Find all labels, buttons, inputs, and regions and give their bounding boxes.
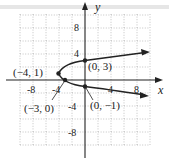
- y-tick-4: 4: [74, 48, 79, 59]
- x-tick-neg8: -8: [27, 84, 35, 95]
- y-tick-8: 8: [74, 22, 79, 33]
- label-vertex: (−4, 1): [13, 66, 43, 79]
- y-tick-neg8: -8: [68, 127, 76, 138]
- point-neg3-0: [63, 78, 67, 82]
- x-tick-4: 4: [108, 84, 113, 95]
- label-neg3-0: (−3, 0): [24, 102, 54, 115]
- axes: [6, 6, 158, 158]
- y-axis-label: y: [94, 0, 101, 14]
- x-axis-label: x: [157, 83, 164, 97]
- y-tick-neg4: -4: [68, 101, 76, 112]
- label-0-neg1: (0, −1): [90, 99, 120, 112]
- y-axis-arrow-icon: [82, 2, 88, 10]
- x-tick-neg4: -4: [52, 84, 60, 95]
- point-vertex: [56, 71, 60, 75]
- graph-canvas: x y -8 -4 4 8 8 4 -4 -8 (−4, 1) (0, 3) (…: [0, 0, 169, 158]
- point-0-3: [83, 58, 87, 62]
- upper-arrow-icon: [141, 49, 150, 56]
- point-0-neg1: [83, 84, 87, 88]
- parabola-curve-lower: [59, 74, 146, 96]
- label-0-3: (0, 3): [88, 60, 112, 73]
- x-tick-8: 8: [134, 84, 139, 95]
